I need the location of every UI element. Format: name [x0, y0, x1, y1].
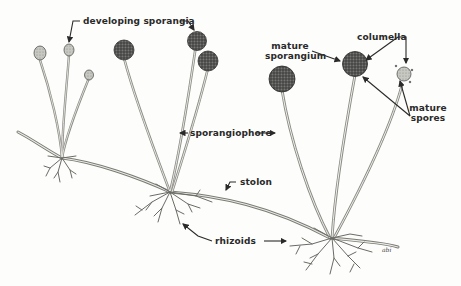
rhizopus-diagram: developing sporangia sporangiophore stol… [0, 0, 461, 286]
label-developing-sporangia: developing sporangia [83, 16, 195, 26]
label-stolon: stolon [240, 177, 272, 187]
stolon [18, 132, 398, 247]
label-columella: columella [357, 32, 407, 42]
label-mature-spores: mature spores [408, 103, 448, 123]
sporangiophores-group-3 [282, 75, 402, 238]
label-rhizoids: rhizoids [215, 236, 256, 246]
artist-signature: abi [382, 246, 391, 253]
sporangia-group-2 [114, 32, 218, 72]
label-mature-sporangium-line2: sporangium [265, 51, 315, 61]
label-mature-spores-line1: mature [408, 103, 448, 113]
sporangiophores-group-2 [124, 45, 208, 192]
label-sporangiophore: sporangiophore [190, 128, 272, 138]
developing-sporangia [34, 44, 94, 80]
label-mature-spores-line2: spores [408, 113, 448, 123]
label-mature-sporangium-line1: mature [265, 41, 315, 51]
label-mature-sporangium: mature sporangium [265, 41, 315, 61]
columella-with-spores [395, 65, 413, 83]
